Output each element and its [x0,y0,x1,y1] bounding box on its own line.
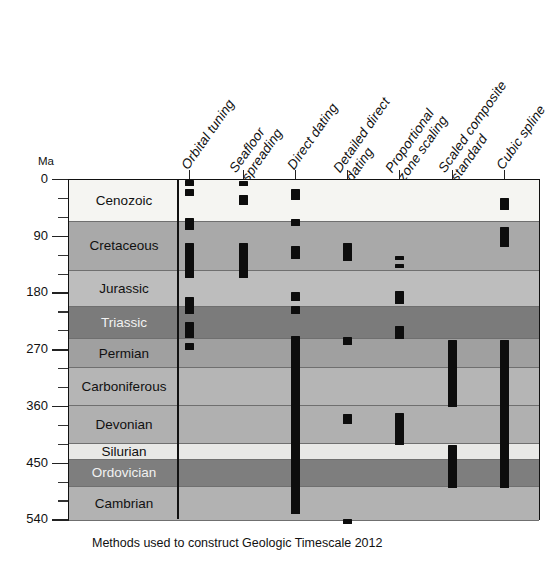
y-tick-label: 180 [8,284,48,299]
y-tick-label: 360 [8,398,48,413]
coverage-mark [185,189,194,196]
coverage-mark [343,337,352,345]
coverage-mark [343,519,352,524]
y-tick-minor [58,444,68,445]
coverage-mark [395,256,404,260]
coverage-mark [395,264,404,268]
coverage-mark [343,414,352,423]
column-tick [243,170,244,179]
coverage-mark [343,243,352,261]
chart-plot-area: CenozoicCretaceousJurassicTriassicPermia… [68,179,540,520]
coverage-mark [239,195,248,205]
coverage-mark [185,343,194,351]
y-tick-major [52,406,69,407]
y-tick-minor [58,387,68,388]
y-tick-label: 90 [8,228,48,243]
column-headers: Orbital tuningSeafloorspreadingDirect da… [0,0,554,180]
coverage-mark [448,340,457,407]
method-coverage-marks [69,180,539,519]
column-header-line1: Orbital tuning [178,97,237,173]
y-tick-major [52,292,69,293]
y-tick-minor [58,425,68,426]
coverage-mark [185,180,194,186]
coverage-mark [395,291,404,304]
coverage-mark [448,445,457,488]
coverage-mark [185,322,194,338]
coverage-mark [291,306,300,314]
coverage-mark [291,292,300,301]
column-tick [452,170,453,179]
coverage-mark [185,218,194,231]
column-header-2: Seafloorspreading [227,118,285,184]
coverage-mark [500,227,509,247]
y-tick-minor [58,500,68,501]
coverage-mark [291,189,300,200]
coverage-mark [500,340,509,488]
y-tick-major [52,519,69,520]
y-tick-label: 270 [8,341,48,356]
column-tick [189,170,190,179]
figure-caption: Methods used to construct Geologic Times… [92,536,382,550]
coverage-mark [185,297,194,314]
column-tick [347,170,348,179]
column-header-6: Scaled compositestandard [436,79,522,184]
coverage-mark [239,181,248,186]
coverage-mark [291,246,300,260]
column-tick [504,170,505,179]
y-tick-minor [58,217,68,218]
figure-canvas: Orbital tuningSeafloorspreadingDirect da… [0,0,554,568]
y-tick-minor [58,198,68,199]
y-tick-major [52,463,69,464]
coverage-mark [291,336,300,514]
y-tick-minor [58,482,68,483]
coverage-mark [500,198,509,211]
coverage-mark [291,219,300,226]
y-tick-label: 0 [8,171,48,186]
y-tick-minor [58,368,68,369]
y-tick-label: 450 [8,455,48,470]
column-tick [295,170,296,179]
coverage-mark [395,326,404,339]
y-tick-minor [58,330,68,331]
y-tick-minor [58,255,68,256]
coverage-mark [185,243,194,278]
y-tick-major [52,236,69,237]
y-tick-minor [58,274,68,275]
y-tick-minor [58,311,68,312]
y-tick-major [52,349,69,350]
y-tick-label: 540 [8,511,48,526]
y-axis-unit-label: Ma [38,155,54,167]
y-tick-major [52,179,69,180]
coverage-mark [239,243,248,278]
column-tick [399,170,400,179]
coverage-mark [395,413,404,445]
